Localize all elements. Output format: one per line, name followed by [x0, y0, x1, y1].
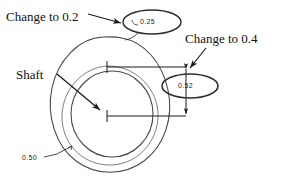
- drawing-canvas: Change to 0.2 Change to 0.4 Shaft 0.25 0…: [0, 0, 281, 183]
- inner-shaft-circle: [71, 71, 153, 157]
- dimension-value-025: 0.25: [140, 18, 155, 25]
- leader-tick-050: [68, 146, 72, 150]
- dimension-value-052: 0.52: [178, 82, 193, 89]
- leader-line-050: [44, 146, 72, 157]
- arrow-change-to-02: [88, 14, 121, 23]
- callout-hook-025: [132, 20, 138, 25]
- technical-drawing: [0, 0, 281, 183]
- annotation-change-to-02: Change to 0.2: [6, 10, 79, 23]
- annotation-shaft: Shaft: [16, 68, 43, 81]
- arrow-change-to-04: [190, 48, 206, 68]
- annotation-change-to-04: Change to 0.4: [185, 32, 258, 45]
- dimension-value-050: 0.50: [22, 154, 37, 161]
